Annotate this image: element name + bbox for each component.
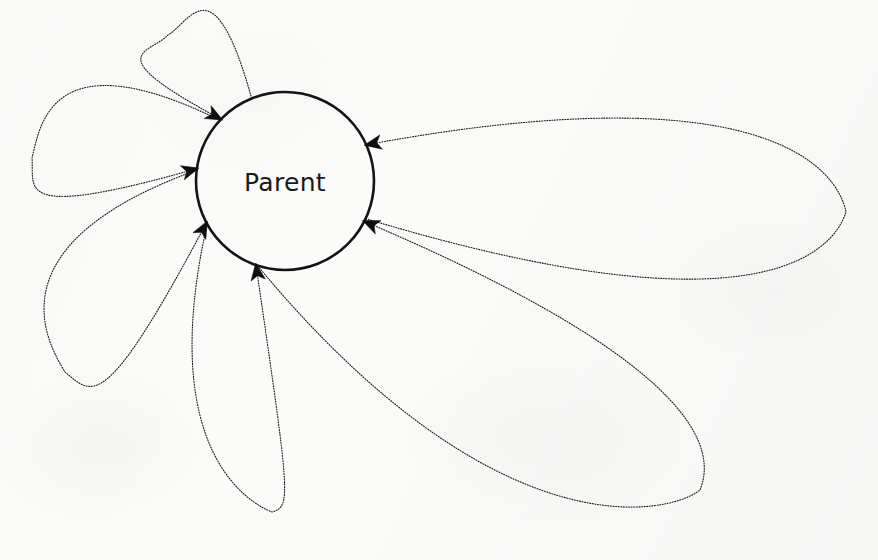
self-loops-group [32,10,846,512]
loop-lower-left-arrowhead [193,221,207,239]
loop-top [141,10,252,119]
parent-node-label: Parent [244,168,326,197]
loop-bottom-right [258,221,705,507]
self-loop-diagram-svg: Parent [0,0,878,560]
loop-bottom-right-arrowhead [362,221,380,234]
diagram-canvas: Parent [0,0,878,560]
loop-lower-left [44,170,206,386]
loop-top-arrowhead [204,106,222,120]
loop-right [366,118,846,279]
loop-left [32,85,220,196]
loop-bottom [192,224,285,512]
parent-node-group[interactable]: Parent [196,92,374,270]
